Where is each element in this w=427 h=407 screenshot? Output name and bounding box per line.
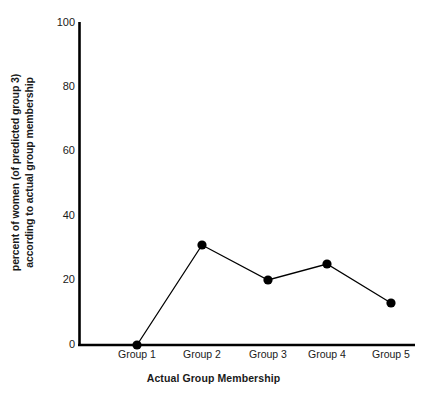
x-axis-title: Actual Group Membership bbox=[0, 372, 427, 384]
x-tick-label-group-4: Group 4 bbox=[308, 348, 346, 361]
data-point-group-2 bbox=[197, 240, 206, 249]
x-tick-label-group-3: Group 3 bbox=[249, 348, 287, 361]
data-line-series-1 bbox=[137, 245, 391, 345]
x-tick-label-group-1: Group 1 bbox=[118, 348, 156, 361]
chart-figure: percent of women (of predicted group 3) … bbox=[0, 0, 427, 407]
plot-area bbox=[0, 0, 427, 407]
data-point-group-4 bbox=[322, 259, 331, 268]
x-tick-label-group-2: Group 2 bbox=[183, 348, 221, 361]
x-axis-tick-labels: Group 1 Group 2 Group 3 Group 4 Group 5 bbox=[0, 348, 427, 364]
data-point-group-5 bbox=[386, 298, 395, 307]
data-point-group-3 bbox=[263, 275, 272, 284]
x-tick-label-group-5: Group 5 bbox=[372, 348, 410, 361]
